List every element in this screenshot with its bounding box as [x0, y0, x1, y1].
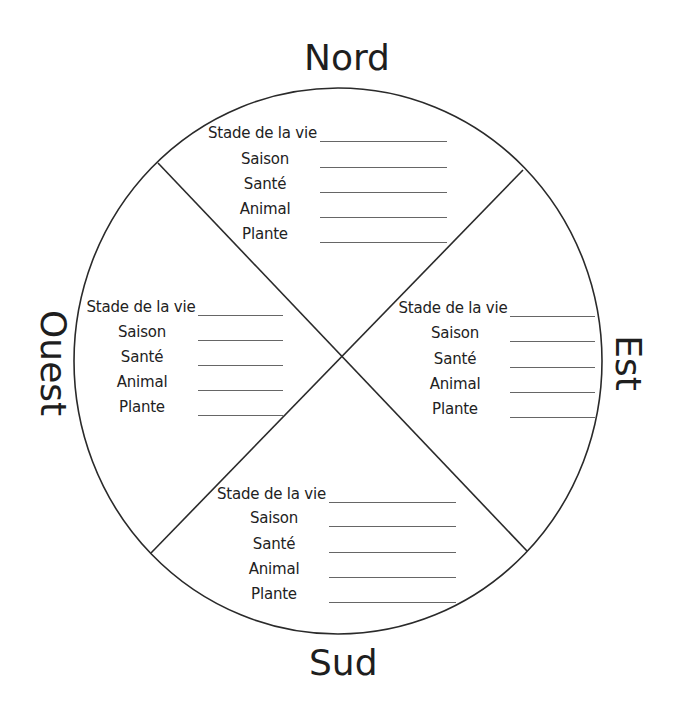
- field-label: Stade de la vie: [214, 485, 329, 503]
- field-label: Santé: [102, 348, 182, 366]
- field-label: Stade de la vie: [205, 124, 320, 142]
- field-input-line[interactable]: [198, 415, 283, 416]
- field-input-line[interactable]: [329, 577, 456, 578]
- field-label: Santé: [415, 350, 495, 368]
- field-input-line[interactable]: [510, 392, 595, 393]
- field-label: Plante: [102, 398, 182, 416]
- field-input-line[interactable]: [329, 502, 456, 503]
- field-label: Saison: [225, 150, 305, 168]
- field-label: Santé: [234, 535, 314, 553]
- field-input-line[interactable]: [510, 417, 595, 418]
- field-input-line[interactable]: [198, 315, 283, 316]
- direction-west-label: Ouest: [35, 310, 71, 410]
- field-input-line[interactable]: [510, 367, 595, 368]
- field-label: Saison: [415, 324, 495, 342]
- field-input-line[interactable]: [198, 340, 283, 341]
- field-input-line[interactable]: [320, 141, 447, 142]
- field-input-line[interactable]: [198, 390, 283, 391]
- field-label: Santé: [225, 175, 305, 193]
- field-input-line[interactable]: [320, 217, 447, 218]
- direction-east-label: Est: [610, 333, 646, 393]
- field-input-line[interactable]: [320, 167, 447, 168]
- field-input-line[interactable]: [329, 602, 456, 603]
- field-input-line[interactable]: [329, 526, 456, 527]
- field-input-line[interactable]: [198, 365, 283, 366]
- field-label: Plante: [415, 400, 495, 418]
- field-label: Stade de la vie: [84, 298, 198, 316]
- field-input-line[interactable]: [510, 316, 595, 317]
- field-label: Plante: [225, 225, 305, 243]
- field-label: Saison: [234, 509, 314, 527]
- field-input-line[interactable]: [320, 192, 447, 193]
- direction-north-label: Nord: [304, 40, 390, 76]
- field-label: Animal: [102, 373, 182, 391]
- direction-south-label: Sud: [309, 645, 378, 681]
- field-label: Animal: [234, 560, 314, 578]
- field-label: Saison: [102, 323, 182, 341]
- field-label: Animal: [225, 200, 305, 218]
- field-label: Animal: [415, 375, 495, 393]
- field-label: Plante: [234, 585, 314, 603]
- field-input-line[interactable]: [510, 341, 595, 342]
- field-input-line[interactable]: [320, 242, 447, 243]
- field-input-line[interactable]: [329, 552, 456, 553]
- field-label: Stade de la vie: [396, 299, 510, 317]
